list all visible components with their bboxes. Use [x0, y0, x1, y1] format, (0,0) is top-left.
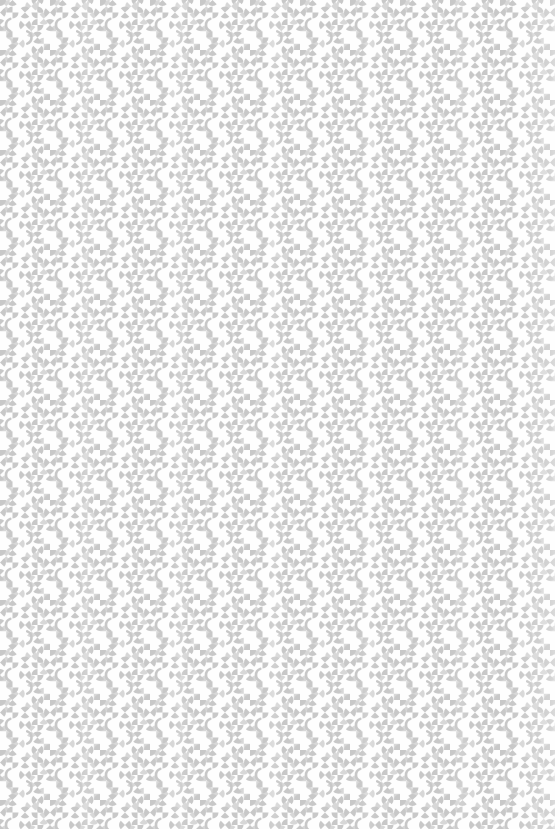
texture-wallpaper-screen	[0, 0, 555, 829]
texture-fill-rect	[0, 0, 555, 829]
background-pattern	[0, 0, 555, 829]
pinwheel-houndstooth-texture-svg	[0, 0, 555, 829]
